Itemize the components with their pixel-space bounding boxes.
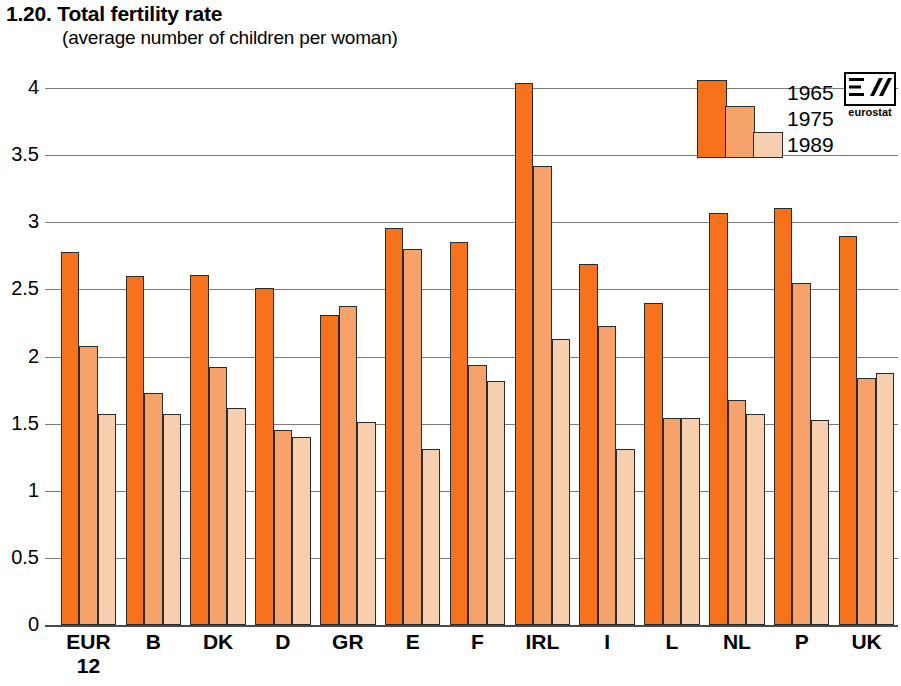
y-tick-mark (45, 558, 55, 559)
bar-b-1989 (163, 414, 182, 625)
bar-f-1975 (468, 365, 487, 625)
x-tick-label-line: B (146, 630, 161, 653)
bar-e-1975 (403, 249, 422, 625)
bar-p-1975 (792, 283, 811, 625)
title-number: 1.20. (6, 2, 52, 25)
chart-legend: 1965 1975 1989 (697, 80, 827, 160)
chart-subtitle: (average number of children per woman) (62, 27, 398, 49)
bar-e-1965 (385, 228, 404, 625)
bar-f-1989 (487, 381, 506, 625)
y-tick-mark (45, 222, 55, 223)
bar-group (385, 68, 441, 625)
eurostat-mark-icon (844, 72, 896, 106)
bar-group (126, 68, 182, 625)
bar-i-1989 (616, 449, 635, 625)
bar-d-1965 (255, 288, 274, 625)
bar-dk-1989 (227, 408, 246, 625)
title-text: Total fertility rate (57, 2, 222, 25)
bar-gr-1989 (357, 422, 376, 625)
x-tick-label-line: DK (203, 630, 233, 653)
legend-label-1965: 1965 (787, 82, 834, 103)
bar-l-1975 (663, 418, 682, 625)
x-tick-label-line: D (275, 630, 290, 653)
x-tick-label-line: I (604, 630, 610, 653)
bar-nl-1965 (709, 213, 728, 625)
bar-p-1965 (774, 208, 793, 625)
bar-group (320, 68, 376, 625)
bar-l-1989 (681, 418, 700, 625)
y-tick-mark (45, 357, 55, 358)
bar-b-1965 (126, 276, 145, 625)
bar-group (190, 68, 246, 625)
x-axis-baseline (45, 625, 898, 627)
y-tick-label: 1.5 (0, 413, 39, 433)
y-tick-label: 4 (0, 77, 39, 97)
y-tick-label: 0.5 (0, 547, 39, 567)
bar-eur-12-1975 (79, 346, 98, 625)
bar-group (61, 68, 117, 625)
y-tick-mark (45, 491, 55, 492)
bar-eur-12-1965 (61, 252, 80, 625)
y-tick-mark (45, 88, 55, 89)
bar-nl-1975 (728, 400, 747, 625)
y-tick-label: 0 (0, 614, 39, 634)
bar-dk-1975 (209, 367, 228, 625)
legend-label-1989: 1989 (787, 134, 834, 155)
bar-gr-1965 (320, 315, 339, 625)
bar-irl-1965 (515, 83, 534, 625)
x-tick-label-line: L (666, 630, 679, 653)
eurostat-wordmark: eurostat (844, 106, 896, 119)
bar-i-1975 (598, 326, 617, 625)
y-tick-label: 3 (0, 211, 39, 231)
bar-uk-1965 (839, 236, 858, 625)
x-tick-label-line: IRL (525, 630, 559, 653)
bar-p-1989 (811, 420, 830, 625)
bar-dk-1965 (190, 275, 209, 625)
eurostat-glyph-icon (846, 74, 894, 104)
bar-group (515, 68, 571, 625)
y-tick-mark (45, 289, 55, 290)
y-tick-label: 3.5 (0, 144, 39, 164)
bar-uk-1989 (876, 373, 895, 625)
x-tick-label-line: 12 (38, 654, 138, 678)
bar-group (644, 68, 700, 625)
legend-label-1975: 1975 (787, 108, 834, 129)
legend-swatch-1965 (697, 80, 727, 158)
bar-irl-1989 (552, 339, 571, 625)
bar-b-1975 (144, 393, 163, 625)
bar-uk-1975 (857, 378, 876, 625)
x-tick-label: UK (817, 630, 901, 654)
x-tick-label-line: F (471, 630, 484, 653)
bar-group (255, 68, 311, 625)
legend-swatch-1989 (753, 132, 783, 158)
bar-gr-1975 (339, 306, 358, 625)
y-tick-label: 2.5 (0, 278, 39, 298)
x-tick-label-line: UK (851, 630, 881, 653)
bar-d-1989 (292, 437, 311, 625)
bar-group (579, 68, 635, 625)
bar-nl-1989 (746, 414, 765, 625)
bar-group (839, 68, 895, 625)
y-tick-mark (45, 424, 55, 425)
bar-d-1975 (274, 430, 293, 625)
bar-irl-1975 (533, 166, 552, 625)
bar-group (450, 68, 506, 625)
legend-swatch-1975 (725, 106, 755, 158)
x-tick-label-line: E (406, 630, 420, 653)
bar-i-1965 (579, 264, 598, 625)
bar-e-1989 (422, 449, 441, 625)
bar-f-1965 (450, 242, 469, 625)
x-tick-label-line: NL (723, 630, 751, 653)
bar-l-1965 (644, 303, 663, 625)
x-tick-label-line: P (795, 630, 809, 653)
bar-eur-12-1989 (98, 414, 117, 625)
chart-figure: 1.20. Total fertility rate (average numb… (0, 0, 901, 686)
eurostat-logo: eurostat (844, 72, 896, 124)
x-tick-label-line: GR (332, 630, 364, 653)
y-tick-label: 2 (0, 346, 39, 366)
y-tick-label: 1 (0, 480, 39, 500)
page-title: 1.20. Total fertility rate (6, 2, 222, 26)
y-tick-mark (45, 155, 55, 156)
